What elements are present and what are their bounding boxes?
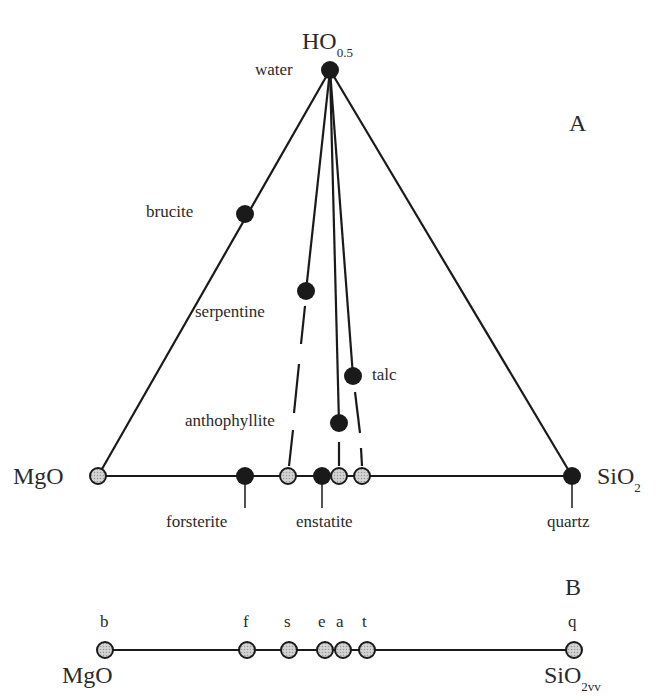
serpentine-projection: [280, 468, 296, 484]
panel-a-label: A: [569, 110, 586, 137]
anthophyllite-projection: [331, 468, 347, 484]
anthophyllite-point: [330, 414, 348, 432]
enstatite-point: [313, 467, 331, 485]
serpentine-point: [297, 282, 315, 300]
forsterite-point: [236, 467, 254, 485]
brucite-point: [236, 205, 254, 223]
forsterite-label: forsterite: [166, 512, 227, 532]
point-label-t: t: [362, 612, 367, 632]
mgo-point: [90, 468, 106, 484]
quartz-label: quartz: [547, 512, 589, 532]
enstatite-label: enstatite: [296, 512, 353, 532]
point-label-b: b: [100, 612, 109, 632]
talc-projection: [354, 468, 370, 484]
mgo-label: MgO: [13, 463, 64, 490]
solid-points: [236, 61, 581, 485]
quartz-point: [563, 467, 581, 485]
tick-lines: [245, 484, 572, 508]
talc-label: talc: [372, 365, 397, 385]
point-label-s: s: [284, 612, 291, 632]
point-label-a: a: [336, 612, 344, 632]
point-label-f: f: [243, 612, 249, 632]
point-label-q: q: [568, 612, 577, 632]
panel-b-sio2-label: SiO2vv: [544, 662, 601, 695]
panel-b-label: B: [565, 574, 581, 601]
serpentine-label: serpentine: [195, 302, 265, 322]
projection-lines: [289, 306, 362, 466]
panel-b-mgo-label: MgO: [62, 662, 113, 689]
sio2-label: SiO2: [597, 463, 641, 496]
talc-point: [344, 367, 362, 385]
brucite-label: brucite: [146, 202, 193, 222]
phase-diagram: [0, 0, 659, 700]
water-point: [321, 61, 339, 79]
apex-formula: HO0.5: [302, 28, 353, 61]
water-label: water: [255, 60, 293, 80]
anthophyllite-label: anthophyllite: [185, 411, 275, 431]
point-label-e: e: [318, 612, 326, 632]
